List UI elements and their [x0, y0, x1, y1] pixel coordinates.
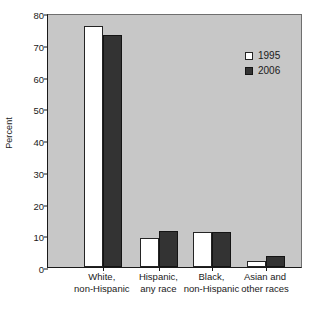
- y-axis-tick-mark: [44, 173, 48, 174]
- legend-item-1995: 1995: [245, 49, 280, 62]
- bar-1995-0: [84, 26, 103, 267]
- bar-1995-3: [247, 261, 266, 267]
- bar-2006-3: [266, 256, 285, 267]
- y-axis-tick-mark: [44, 269, 48, 270]
- y-axis-tick-mark: [44, 46, 48, 47]
- y-axis-tick-label: 50: [33, 105, 44, 116]
- y-axis-tick-mark: [44, 78, 48, 79]
- legend-swatch-2006-icon: [245, 67, 253, 75]
- legend-item-2006: 2006: [245, 64, 280, 77]
- y-axis-tick-mark: [44, 237, 48, 238]
- y-axis-title: Percent: [4, 103, 14, 163]
- y-axis-tick-label: 10: [33, 232, 44, 243]
- y-axis-tick-mark: [44, 15, 48, 16]
- y-axis-tick-label: 30: [33, 168, 44, 179]
- bar-chart: Percent 01020304050607080 White, non-His…: [0, 0, 317, 312]
- legend-label-2006: 2006: [258, 65, 280, 76]
- legend-swatch-1995-icon: [245, 52, 253, 60]
- bar-1995-1: [140, 238, 159, 267]
- y-axis-tick-label: 80: [33, 10, 44, 21]
- y-axis-tick-label: 60: [33, 73, 44, 84]
- legend: 1995 2006: [245, 49, 280, 79]
- y-axis-tick-label: 40: [33, 137, 44, 148]
- x-axis-category-label: Asian and other races: [220, 271, 310, 294]
- y-axis-tick-label: 20: [33, 200, 44, 211]
- y-axis-tick-mark: [44, 205, 48, 206]
- y-axis-tick-label: 70: [33, 41, 44, 52]
- bar-1995-2: [193, 232, 212, 267]
- bar-2006-2: [212, 232, 231, 267]
- y-axis-tick-mark: [44, 110, 48, 111]
- bar-2006-0: [103, 35, 122, 267]
- legend-label-1995: 1995: [258, 50, 280, 61]
- y-axis-tick-mark: [44, 142, 48, 143]
- bar-2006-1: [159, 231, 178, 268]
